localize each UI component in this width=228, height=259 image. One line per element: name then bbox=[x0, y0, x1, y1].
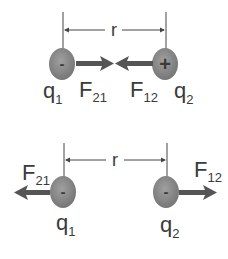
label-f12: F12 bbox=[194, 157, 222, 185]
force-arrow-f21 bbox=[76, 56, 114, 71]
panel-opposite-charges: r - + q1 F21 F12 q2 bbox=[43, 12, 193, 107]
coulomb-diagram: r - + q1 F21 F12 q2 r - - bbox=[0, 0, 228, 259]
charge-sign-q1: - bbox=[60, 55, 65, 72]
label-q1: q1 bbox=[56, 210, 75, 239]
label-q1: q1 bbox=[43, 78, 62, 107]
label-f21: F21 bbox=[22, 160, 50, 188]
label-f21: F21 bbox=[79, 77, 107, 105]
distance-label: r bbox=[111, 20, 117, 40]
label-q2: q2 bbox=[174, 78, 193, 107]
charge-sign-q2: - bbox=[164, 183, 169, 200]
charge-sign-q2: + bbox=[159, 53, 171, 75]
force-arrow-f12 bbox=[179, 185, 217, 200]
panel-like-charges: r - - F21 F12 q1 q2 bbox=[14, 143, 222, 241]
charge-sign-q1: - bbox=[61, 183, 66, 200]
force-arrow-f12 bbox=[115, 56, 153, 71]
label-q2: q2 bbox=[160, 212, 179, 241]
distance-label: r bbox=[112, 150, 118, 170]
label-f12: F12 bbox=[130, 77, 158, 105]
